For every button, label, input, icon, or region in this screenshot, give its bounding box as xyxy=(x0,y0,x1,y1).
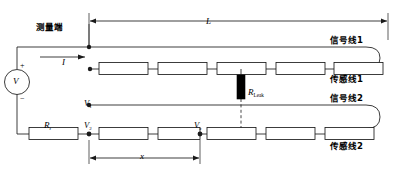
signal-line-2-wire xyxy=(89,105,380,129)
resistor-top-3 xyxy=(217,63,266,75)
sense-line-1-chain xyxy=(88,63,383,75)
rt-label: Rt xyxy=(44,115,51,131)
v2-label: V2 xyxy=(84,115,92,131)
v1-label: V1 xyxy=(84,93,92,109)
rt-body xyxy=(29,128,78,140)
vx-label: Vx xyxy=(194,115,201,131)
resistor-bot-1 xyxy=(99,128,148,140)
sense-line-1-label: 传感线1 xyxy=(330,75,363,84)
signal-line-1-label: 信号线1 xyxy=(330,36,363,45)
rt-element xyxy=(29,128,89,140)
source-plus-label: + xyxy=(20,62,25,70)
sense-line-2-chain xyxy=(87,128,374,140)
current-label: I xyxy=(62,58,65,67)
rleak-body xyxy=(237,75,245,99)
signal-line-2-label: 信号线2 xyxy=(330,94,363,103)
distance-x-label: x xyxy=(140,146,144,162)
sense-line-2-label: 传感线2 xyxy=(330,142,363,151)
resistor-top-4 xyxy=(276,63,325,75)
resistor-bot-3 xyxy=(207,128,256,140)
measurement-end-label: 测量端 xyxy=(36,23,63,32)
rleak-element xyxy=(237,69,245,134)
resistor-top-2 xyxy=(158,63,207,75)
resistor-bot-5 xyxy=(325,128,374,140)
resistor-bot-4 xyxy=(266,128,315,140)
resistor-top-5 xyxy=(334,63,383,75)
length-L-label: L xyxy=(206,11,211,27)
resistor-top-1 xyxy=(99,63,148,75)
rleak-label: RLeak xyxy=(248,82,264,98)
dimension-line-x xyxy=(89,140,200,164)
source-label: V xyxy=(13,77,19,86)
source-minus-label: − xyxy=(20,95,25,103)
figure-canvas: 测量端 I + V − L Rt V1 V2 Vx RLeak x 信号线1 传… xyxy=(0,0,409,175)
